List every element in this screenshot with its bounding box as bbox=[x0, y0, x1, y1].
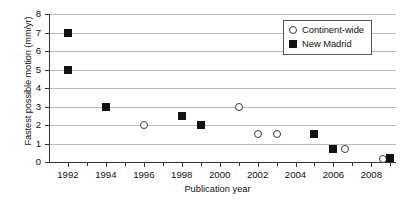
data-point-new-madrid bbox=[197, 121, 205, 129]
x-axis-minor-tick bbox=[163, 163, 164, 166]
data-point-continent-wide bbox=[235, 103, 243, 111]
data-point-new-madrid bbox=[64, 66, 72, 74]
data-point-continent-wide bbox=[341, 145, 349, 153]
x-axis-minor-tick bbox=[390, 163, 391, 166]
y-axis-tick bbox=[45, 88, 49, 89]
x-axis-tick bbox=[68, 163, 69, 167]
x-axis-tick-label: 1994 bbox=[86, 169, 126, 180]
y-axis-tick-label: 6 bbox=[19, 46, 41, 56]
y-axis-tick bbox=[45, 70, 49, 71]
y-axis-title: Fastest possible motion (mm/yr) bbox=[23, 1, 33, 161]
data-point-new-madrid bbox=[329, 145, 337, 153]
y-axis-tick bbox=[45, 107, 49, 108]
x-axis-tick bbox=[371, 163, 372, 167]
legend-label-new-madrid: New Madrid bbox=[302, 39, 352, 49]
y-axis-tick-label: 0 bbox=[19, 157, 41, 167]
open-circle-marker-icon bbox=[289, 26, 297, 34]
x-axis-minor-tick bbox=[87, 163, 88, 166]
gridline bbox=[49, 88, 396, 89]
x-axis-tick bbox=[144, 163, 145, 167]
x-axis-minor-tick bbox=[277, 163, 278, 166]
data-point-new-madrid bbox=[178, 112, 186, 120]
y-axis-tick-label: 3 bbox=[19, 102, 41, 112]
y-axis-tick-label: 4 bbox=[19, 83, 41, 93]
y-axis-tick-label: 5 bbox=[19, 65, 41, 75]
x-axis-tick bbox=[106, 163, 107, 167]
x-axis-tick bbox=[333, 163, 334, 167]
x-axis-tick bbox=[220, 163, 221, 167]
scatter-chart-figure: Fastest possible motion (mm/yr) 01234567… bbox=[0, 0, 412, 204]
data-point-continent-wide bbox=[140, 121, 148, 129]
x-axis-minor-tick bbox=[125, 163, 126, 166]
y-axis-tick-label: 8 bbox=[19, 9, 41, 19]
x-axis-tick bbox=[258, 163, 259, 167]
y-axis-tick bbox=[45, 14, 49, 15]
x-axis-tick-label: 1996 bbox=[124, 169, 164, 180]
x-axis-title: Publication year bbox=[40, 184, 395, 194]
chart-legend: Continent-wide New Madrid bbox=[283, 20, 372, 55]
x-axis-minor-tick bbox=[314, 163, 315, 166]
gridline bbox=[49, 14, 396, 15]
filled-square-marker-icon bbox=[289, 40, 297, 48]
x-axis-minor-tick bbox=[239, 163, 240, 166]
data-point-new-madrid bbox=[310, 130, 318, 138]
y-axis-tick-label: 7 bbox=[19, 28, 41, 38]
y-axis-tick-label: 2 bbox=[19, 120, 41, 130]
x-axis-tick-label: 2006 bbox=[313, 169, 353, 180]
x-axis-tick-label: 2000 bbox=[200, 169, 240, 180]
y-axis-tick bbox=[45, 144, 49, 145]
x-axis-tick bbox=[182, 163, 183, 167]
x-axis-tick-label: 2008 bbox=[351, 169, 391, 180]
y-axis-tick bbox=[45, 51, 49, 52]
data-point-new-madrid bbox=[102, 103, 110, 111]
x-axis-tick-label: 2002 bbox=[238, 169, 278, 180]
y-axis-tick-label: 1 bbox=[19, 139, 41, 149]
data-point-new-madrid bbox=[64, 29, 72, 37]
x-axis-tick-label: 2004 bbox=[276, 169, 316, 180]
y-axis-tick bbox=[45, 162, 49, 163]
x-axis-minor-tick bbox=[352, 163, 353, 166]
gridline bbox=[49, 70, 396, 71]
data-point-continent-wide bbox=[254, 130, 262, 138]
x-axis-tick-label: 1998 bbox=[162, 169, 202, 180]
y-axis-tick bbox=[45, 33, 49, 34]
y-axis-tick bbox=[45, 125, 49, 126]
legend-label-continent-wide: Continent-wide bbox=[302, 25, 364, 35]
legend-item-continent-wide: Continent-wide bbox=[289, 24, 364, 36]
y-axis-line bbox=[49, 14, 50, 163]
data-point-continent-wide bbox=[273, 130, 281, 138]
x-axis-minor-tick bbox=[201, 163, 202, 166]
x-axis-tick bbox=[296, 163, 297, 167]
gridline bbox=[49, 125, 396, 126]
x-axis-line bbox=[49, 162, 396, 163]
x-axis-tick-label: 1992 bbox=[48, 169, 88, 180]
data-point-new-madrid bbox=[386, 154, 394, 162]
legend-item-new-madrid: New Madrid bbox=[289, 38, 364, 50]
